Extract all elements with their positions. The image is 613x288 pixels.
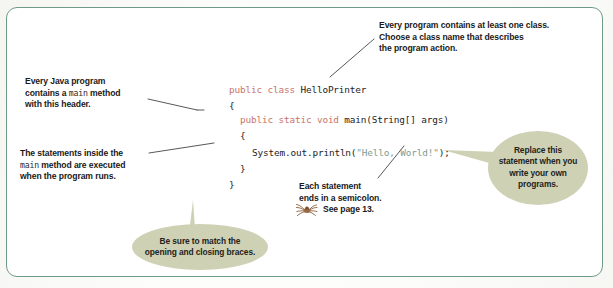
semicolon-note-line-3: See page 13. <box>299 204 382 216</box>
statements-note-mono-main: main <box>20 160 39 170</box>
code-line-close-brace-class: } <box>196 171 234 199</box>
annotation-class-note: Every program contains at least one clas… <box>379 20 549 55</box>
main-header-note-line-3: with this header. <box>25 99 120 111</box>
token-keyword: public class <box>229 84 300 95</box>
semicolon-note-line-1: Each statement <box>299 181 382 193</box>
bubble-replace-line-3: write your own <box>488 168 588 179</box>
annotation-main-header-note: Every Java program contains a main metho… <box>25 76 120 111</box>
main-header-note-line-2-b: method <box>88 88 121 98</box>
semicolon-note-see-page: See page 13. <box>323 204 374 214</box>
bubble-replace-line-4: programs. <box>488 179 588 190</box>
bubble-replace-text: Replace this statement when you write yo… <box>488 145 588 191</box>
figure-root: public class HelloPrinter { public stati… <box>0 0 613 288</box>
bubble-replace-line-1: Replace this <box>488 145 588 156</box>
token-class-name: HelloPrinter <box>300 84 366 95</box>
token-main-signature: main(String[] args) <box>344 114 448 125</box>
code-line-println: System.out.println("Hello, World!"); <box>219 139 450 167</box>
statements-note-line-1: The statements inside the <box>20 148 125 160</box>
class-note-line-2: Choose a class name that describes <box>379 32 549 44</box>
main-header-note-mono-main: main <box>69 88 88 98</box>
token-brace: } <box>229 179 235 190</box>
token-string-literal: "Hello, World!" <box>356 147 438 158</box>
token-keyword: public static void <box>240 114 344 125</box>
token-brace: } <box>240 163 246 174</box>
semicolon-note-line-2: ends in a semicolon. <box>299 193 382 205</box>
class-note-line-3: the program action. <box>379 43 549 55</box>
statements-note-line-2-b: method are executed <box>39 160 125 170</box>
bubble-braces-text: Be sure to match the opening and closing… <box>132 236 268 259</box>
token-println-call: System.out.println( <box>252 147 356 158</box>
bubble-braces-line-1: Be sure to match the <box>132 236 268 247</box>
statements-note-line-3: when the program runs. <box>20 171 125 183</box>
bubble-braces-line-2: opening and closing braces. <box>132 247 268 258</box>
main-header-note-line-2: contains a main method <box>25 88 120 100</box>
token-statement-end: ); <box>439 147 450 158</box>
bubble-replace-line-2: statement when you <box>488 156 588 167</box>
class-note-line-1: Every program contains at least one clas… <box>379 20 549 32</box>
annotation-semicolon-note: Each statement ends in a semicolon. See … <box>299 181 382 216</box>
main-header-note-line-1: Every Java program <box>25 76 120 88</box>
statements-note-line-2: main method are executed <box>20 160 125 172</box>
main-header-note-line-2-a: contains a <box>25 88 69 98</box>
annotation-statements-note: The statements inside the main method ar… <box>20 148 125 183</box>
